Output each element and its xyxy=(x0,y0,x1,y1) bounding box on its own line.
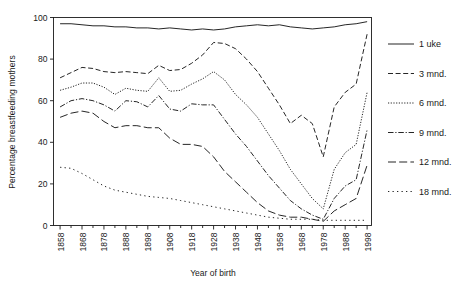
x-tick-label: 1948 xyxy=(253,232,263,251)
y-tick-label: 80 xyxy=(38,54,48,64)
legend-label: 12 mnd. xyxy=(419,157,452,167)
x-tick-label: 1978 xyxy=(319,232,329,251)
x-axis-title: Year of birth xyxy=(190,268,236,278)
x-tick-label: 1968 xyxy=(297,232,307,251)
y-tick-label: 0 xyxy=(43,221,48,231)
x-tick-label: 1918 xyxy=(187,232,197,251)
x-axis-tick-labels: 1858186818781888189819081918192819381948… xyxy=(56,232,373,251)
x-tick-label: 1888 xyxy=(121,232,131,251)
breastfeeding-line-chart: 020406080100 185818681878188818981908191… xyxy=(0,0,465,281)
x-tick-label: 1938 xyxy=(231,232,241,251)
y-axis-title: Percentage breastfeeding mothers xyxy=(7,55,17,189)
legend-label: 18 mnd. xyxy=(419,187,452,197)
legend-label: 6 mnd. xyxy=(419,98,447,108)
x-tick-label: 1958 xyxy=(275,232,285,251)
legend-label: 3 mnd. xyxy=(419,69,447,79)
x-tick-label: 1928 xyxy=(209,232,219,251)
y-tick-label: 100 xyxy=(33,13,47,23)
x-tick-label: 1878 xyxy=(99,232,109,251)
y-tick-label: 20 xyxy=(38,179,48,189)
chart-figure: 020406080100 185818681878188818981908191… xyxy=(0,0,465,281)
x-tick-label: 1898 xyxy=(143,232,153,251)
x-tick-label: 1908 xyxy=(165,232,175,251)
x-tick-label: 1868 xyxy=(78,232,88,251)
y-tick-label: 60 xyxy=(38,96,48,106)
legend-label: 9 mnd. xyxy=(419,128,447,138)
x-tick-label: 1988 xyxy=(341,232,351,251)
x-tick-label: 1858 xyxy=(56,232,66,251)
legend-label: 1 uke xyxy=(419,39,441,49)
x-tick-label: 1998 xyxy=(363,232,373,251)
y-tick-label: 40 xyxy=(38,137,48,147)
